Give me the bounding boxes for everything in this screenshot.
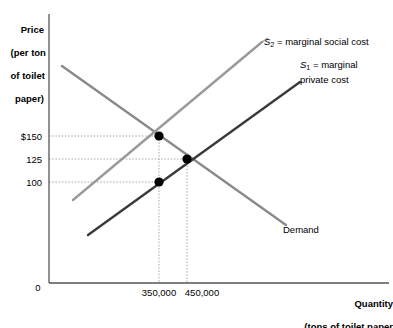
s1-text-line-1: = marginal [310,59,357,70]
x-axis-title: Quantity (tons of toilet paper produced … [281,286,393,328]
point-private-cost-at-social-quantity [154,177,163,186]
s2-text: = marginal social cost [274,36,368,47]
supply-demand-chart: Price (per ton of toilet paper) Quantity… [0,0,393,328]
y-axis-title-line-1: Price [21,24,44,35]
y-axis-title-line-4: paper) [15,93,44,104]
demand-curve [62,66,286,225]
demand-label: Demand [283,224,319,236]
x-tick-label-450000: 450,000 [176,287,228,299]
y-axis-title-line-3: of toilet [11,70,45,81]
y-axis-title: Price (per ton of toilet paper) [0,12,44,116]
y-tick-label-125: 125 [2,154,42,166]
x-axis-title-line-1: Quantity [354,298,393,309]
point-market-equilibrium [182,154,191,163]
guide-lines [49,136,187,283]
origin-label: 0 [32,282,44,294]
y-tick-label-100: 100 [2,177,42,189]
s1-text-line-2: private cost [300,74,349,85]
supply-social-label: S2 = marginal social cost [264,36,369,51]
y-axis-title-line-2: (per ton [11,47,46,58]
y-tick-label-150: $150 [2,131,42,143]
x-axis-title-line-2: (tons of toilet paper [304,321,393,328]
supply-private-label: S1 = marginalprivate cost [300,59,358,85]
point-social-optimum [154,131,163,140]
